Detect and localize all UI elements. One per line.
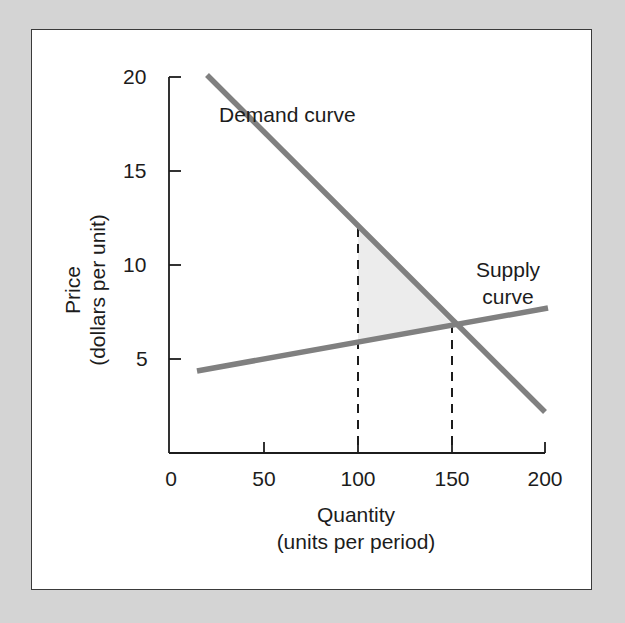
- y-tick-label-15: 15: [123, 159, 146, 184]
- x-axis-title: Quantity: [256, 503, 456, 528]
- supply-curve-label-line1: Supply: [466, 258, 550, 283]
- shaded-triangle: [358, 228, 452, 340]
- x-axis-subtitle: (units per period): [256, 530, 456, 555]
- supply-curve-label-line2: curve: [466, 285, 550, 310]
- figure-root: 20 15 10 5 0 50 100 150 200 Demand curve…: [0, 0, 625, 623]
- y-tick-label-5: 5: [136, 347, 148, 372]
- x-tick-label-50: 50: [246, 467, 282, 492]
- x-tick-label-150: 150: [426, 467, 478, 492]
- x-tick-label-200: 200: [519, 467, 571, 492]
- y-axis-title-wrapper: Price (dollars per unit): [55, 180, 115, 400]
- x-tick-label-0: 0: [162, 467, 180, 492]
- y-tick-label-10: 10: [123, 253, 146, 278]
- x-tick-label-100: 100: [332, 467, 384, 492]
- y-axis-title: Price (dollars per unit): [60, 214, 110, 366]
- demand-curve-label: Demand curve: [219, 103, 356, 128]
- y-tick-label-20: 20: [123, 65, 146, 90]
